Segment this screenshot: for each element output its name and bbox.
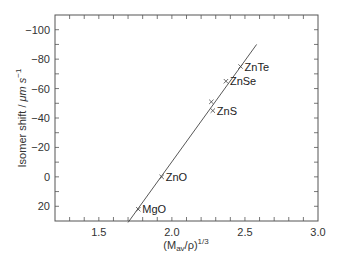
y-axis-label: Isomer shift / μm s−1 [14,68,28,167]
x-tick-label: 3.0 [310,226,325,238]
data-point-marker [211,108,215,112]
point-label: ZnSe [230,75,256,87]
x-tick-label: 2.0 [164,226,179,238]
data-point-marker [238,64,242,68]
data-point-marker [209,100,213,104]
point-label: ZnTe [245,61,269,73]
y-tick-label: −40 [31,112,50,124]
point-label: ZnO [166,171,188,183]
data-point-marker [224,79,228,83]
data-points: MgOZnOZnSZnSeZnTe [136,61,269,216]
scatter-chart: 1.52.02.53.0 −100−80−60−40−20020 MgOZnOZ… [0,0,339,263]
y-tick-label: −20 [31,141,50,153]
minor-ticks [55,15,318,221]
point-label: MgO [142,203,166,215]
y-tick-label: −80 [31,53,50,65]
y-tick-label: −60 [31,83,50,95]
x-axis-label: (Mav/ρ)1/3 [163,237,209,253]
y-tick-label: −100 [25,24,50,36]
point-label: ZnS [217,105,237,117]
y-tick-labels: −100−80−60−40−20020 [25,24,50,213]
y-tick-label: 0 [44,171,50,183]
fit-line [128,44,257,222]
y-tick-label: 20 [38,200,50,212]
x-tick-label: 1.5 [91,226,106,238]
x-tick-label: 2.5 [237,226,252,238]
plot-frame [55,15,318,221]
